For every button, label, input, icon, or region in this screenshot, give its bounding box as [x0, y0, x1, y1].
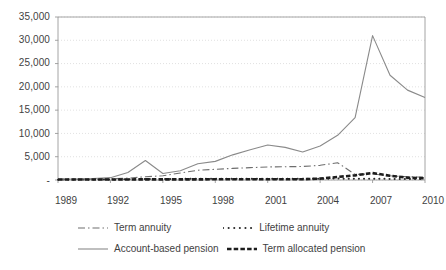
legend-item-lifetime-annuity[interactable]: Lifetime annuity — [223, 222, 329, 233]
legend-label: Term annuity — [114, 222, 171, 233]
series-lines — [58, 36, 425, 180]
legend-swatch-dotted-icon — [223, 223, 253, 233]
legend-swatch-solid-icon — [78, 244, 108, 254]
chart-container: 35,000 30,000 25,000 20,000 15,000 10,00… — [0, 0, 446, 270]
legend-label: Term allocated pension — [263, 243, 366, 254]
axis-lines — [55, 17, 425, 183]
legend-label: Account-based pension — [114, 243, 219, 254]
legend-row-bottom: Account-based pension Term allocated pen… — [78, 243, 365, 254]
legend-swatch-thick-dashed-icon — [227, 244, 257, 254]
legend-item-term-annuity[interactable]: Term annuity — [78, 222, 171, 233]
legend-item-term-allocated-pension[interactable]: Term allocated pension — [227, 243, 366, 254]
series-line-account-based-pension — [58, 36, 425, 180]
legend-swatch-dash-dot-icon — [78, 223, 108, 233]
legend-row-top: Term annuity Lifetime annuity — [78, 222, 329, 233]
legend-item-account-based-pension[interactable]: Account-based pension — [78, 243, 219, 254]
legend-label: Lifetime annuity — [259, 222, 329, 233]
gridlines — [58, 17, 425, 180]
